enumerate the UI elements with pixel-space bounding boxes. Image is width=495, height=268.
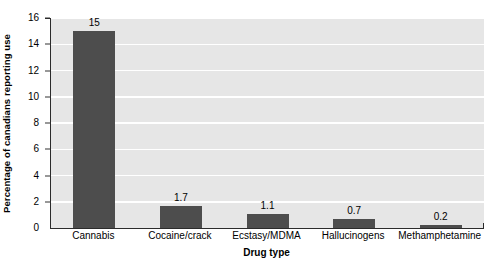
y-axis-tick-label: 0 (33, 223, 39, 233)
bar-value-label: 0.2 (434, 212, 448, 222)
bar-group[interactable]: 0.7 (333, 18, 375, 228)
bar-group[interactable]: 15 (73, 18, 115, 228)
bar[interactable] (73, 31, 115, 228)
bar-group[interactable]: 1.7 (160, 18, 202, 228)
bar-value-label: 15 (89, 18, 100, 28)
bars-layer: 151.71.10.70.2 (51, 18, 484, 228)
y-axis-tick-label: 6 (33, 144, 39, 154)
x-axis-tick-label: Methamphetamine (398, 231, 481, 241)
x-axis-tick-label: Cocaine/crack (148, 231, 211, 241)
bar[interactable] (333, 219, 375, 228)
bar-group[interactable]: 0.2 (420, 18, 462, 228)
x-axis-title: Drug type (50, 248, 483, 258)
bar-group[interactable]: 1.1 (247, 18, 289, 228)
y-axis-tick-label: 10 (28, 92, 39, 102)
bar[interactable] (160, 206, 202, 228)
y-axis-tick-labels: 0246810121416 (14, 18, 42, 228)
x-axis-tick-label: Hallucinogens (322, 231, 385, 241)
y-axis-title-text: Percentage of canadians reporting use (2, 34, 12, 213)
x-axis-tick-label: Ecstasy/MDMA (232, 231, 300, 241)
y-axis-title: Percentage of canadians reporting use (0, 18, 14, 228)
bar-chart-figure: Percentage of canadians reporting use 02… (0, 0, 495, 268)
y-axis-tick-label: 8 (33, 118, 39, 128)
bar-value-label: 0.7 (347, 206, 361, 216)
plot-area: 151.71.10.70.2 (50, 18, 484, 229)
y-axis-tick-label: 12 (28, 66, 39, 76)
bar[interactable] (247, 214, 289, 228)
x-axis-end-cap (483, 223, 484, 229)
bar[interactable] (420, 225, 462, 228)
bar-value-label: 1.7 (174, 193, 188, 203)
x-axis-tick-label: Cannabis (72, 231, 114, 241)
x-axis-tick-labels: CannabisCocaine/crackEcstasy/MDMAHalluci… (50, 231, 483, 245)
bar-value-label: 1.1 (261, 201, 275, 211)
y-axis-tick-label: 14 (28, 39, 39, 49)
y-axis-tick-label: 16 (28, 13, 39, 23)
y-axis-tick-label: 2 (33, 197, 39, 207)
y-axis-tick-label: 4 (33, 171, 39, 181)
